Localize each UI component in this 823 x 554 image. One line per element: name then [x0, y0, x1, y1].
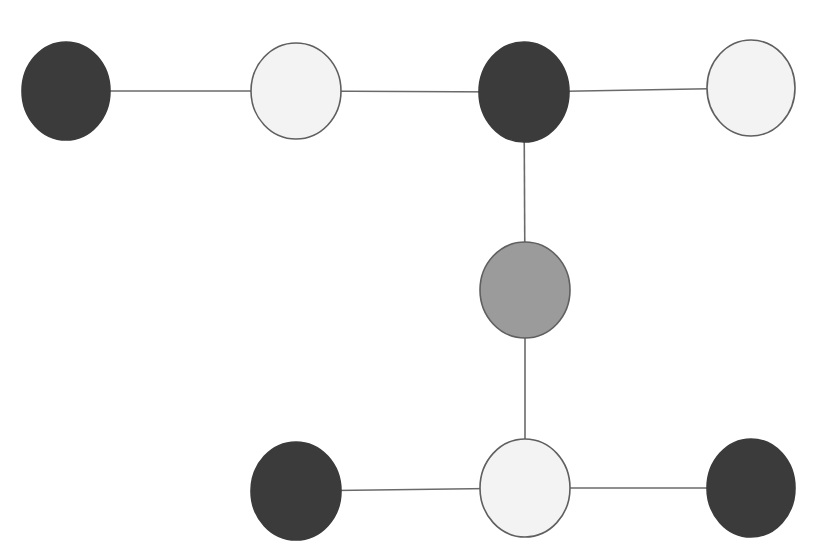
node-n1-dark	[22, 42, 110, 140]
graph-diagram	[0, 0, 823, 554]
node-n2-light	[251, 43, 341, 139]
node-n5-gray	[480, 242, 570, 338]
node-n6-dark	[251, 442, 341, 540]
node-n3-dark	[479, 42, 569, 142]
node-n8-dark	[707, 439, 795, 537]
nodes-layer	[22, 40, 795, 540]
node-n4-light	[707, 40, 795, 136]
edges-layer	[66, 88, 751, 491]
node-n7-light	[480, 439, 570, 537]
